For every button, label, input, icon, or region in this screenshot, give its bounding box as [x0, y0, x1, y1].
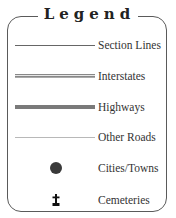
legend-label: Highways — [98, 97, 145, 117]
legend-item-highways: Highways — [0, 97, 176, 117]
legend-label: Other Roads — [98, 127, 156, 147]
legend-item-other-roads: Other Roads — [0, 127, 176, 147]
city-dot-icon — [50, 162, 62, 174]
other-road-line-symbol — [15, 137, 95, 138]
legend-item-section-lines: Section Lines — [0, 35, 176, 55]
legend-title-text: Legend — [38, 5, 139, 23]
section-line-symbol — [15, 45, 95, 46]
interstate-line-symbol — [15, 74, 95, 78]
legend-item-cities-towns: Cities/Towns — [0, 158, 176, 178]
legend-item-interstates: Interstates — [0, 66, 176, 86]
highway-line-symbol — [15, 105, 95, 109]
legend-label: Cities/Towns — [98, 158, 159, 178]
legend-label: Section Lines — [98, 35, 161, 55]
legend-label: Interstates — [98, 66, 145, 86]
legend-title: Legend — [0, 3, 176, 25]
legend-label: Cemeteries — [98, 190, 150, 210]
cemetery-cross-icon — [51, 194, 61, 206]
legend-item-cemeteries: Cemeteries — [0, 190, 176, 210]
